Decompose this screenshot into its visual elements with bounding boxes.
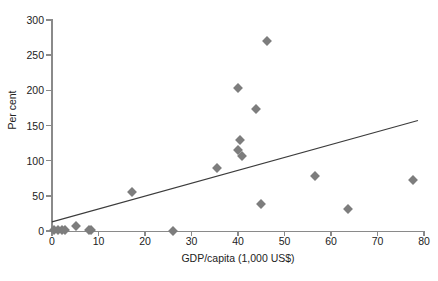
scatter-chart: 050100150200250300 01020304050607080 Per… bbox=[0, 0, 438, 281]
y-tick-label: 50 bbox=[0, 191, 44, 202]
x-tick-label: 80 bbox=[404, 236, 438, 247]
x-tick-label: 30 bbox=[172, 236, 212, 247]
y-tick-label: 0 bbox=[0, 226, 44, 237]
x-axis-title: GDP/capita (1,000 US$) bbox=[52, 252, 424, 264]
y-tick-label: 300 bbox=[0, 15, 44, 26]
y-axis-title: Per cent bbox=[6, 80, 18, 140]
x-tick-label: 60 bbox=[311, 236, 351, 247]
y-tick-label: 100 bbox=[0, 156, 44, 167]
x-tick-label: 50 bbox=[265, 236, 305, 247]
y-tick-label: 250 bbox=[0, 50, 44, 61]
plot-area bbox=[52, 20, 424, 231]
x-tick-label: 70 bbox=[358, 236, 398, 247]
x-tick-label: 40 bbox=[218, 236, 258, 247]
x-tick-label: 20 bbox=[125, 236, 165, 247]
x-tick-label: 0 bbox=[32, 236, 72, 247]
x-tick-label: 10 bbox=[79, 236, 119, 247]
